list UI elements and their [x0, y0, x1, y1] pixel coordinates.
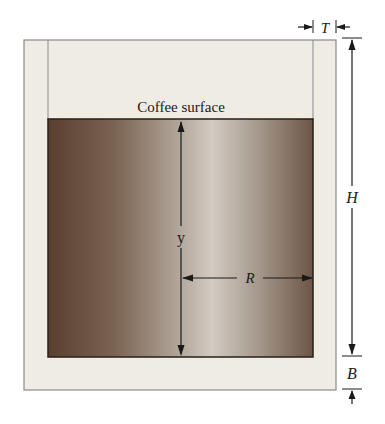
depth-label: y [177, 229, 185, 247]
arrow-right-icon [304, 24, 313, 30]
bottom-thickness-dimension: B [342, 365, 362, 404]
height-dimension: H [342, 38, 362, 356]
arrow-up-icon [349, 390, 356, 399]
bottom-thickness-label: B [347, 365, 357, 382]
arrow-up-icon [349, 39, 356, 50]
coffee-surface-label: Coffee surface [137, 99, 225, 115]
wall-thickness-dimension: T [298, 20, 350, 36]
wall-thickness-label: T [321, 20, 331, 36]
arrow-left-icon [336, 24, 345, 30]
radius-label: R [244, 270, 254, 286]
arrow-down-icon [349, 344, 356, 355]
coffee-cup-diagram: Coffee surface y R T H [0, 0, 385, 424]
height-label: H [345, 189, 359, 206]
